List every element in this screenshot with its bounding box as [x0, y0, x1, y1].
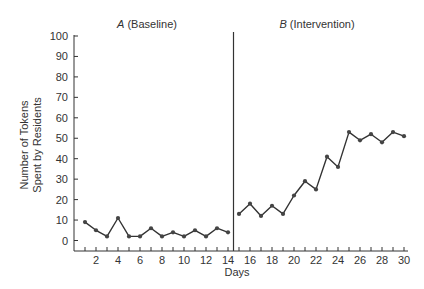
line-chart: A (Baseline)B (Intervention) 01020304050…	[0, 0, 424, 289]
y-tick-label: 10	[56, 214, 68, 226]
y-tick-label: 20	[56, 194, 68, 206]
data-point-marker	[160, 234, 164, 238]
data-point-marker	[193, 228, 197, 232]
x-tick-label: 10	[178, 254, 190, 266]
data-point-marker	[94, 228, 98, 232]
y-tick-label: 50	[56, 132, 68, 144]
y-tick-label: 60	[56, 112, 68, 124]
data-point-marker	[83, 220, 87, 224]
x-tick-label: 30	[398, 254, 410, 266]
data-point-marker	[215, 226, 219, 230]
phase-label-intervention: B (Intervention)	[279, 18, 354, 30]
y-tick-label: 30	[56, 173, 68, 185]
data-point-marker	[105, 234, 109, 238]
x-tick-label: 8	[159, 254, 165, 266]
data-point-marker	[182, 234, 186, 238]
y-tick-label: 80	[56, 71, 68, 83]
x-tick-label: 28	[376, 254, 388, 266]
data-point-marker	[402, 134, 406, 138]
series-line-baseline	[85, 218, 228, 236]
data-point-marker	[358, 138, 362, 142]
data-point-marker	[226, 230, 230, 234]
data-point-marker	[237, 212, 241, 216]
x-axis-title: Days	[224, 266, 250, 278]
data-point-marker	[380, 140, 384, 144]
data-point-marker	[248, 202, 252, 206]
y-tick-label: 100	[50, 30, 68, 42]
data-point-marker	[281, 212, 285, 216]
x-tick-label: 2	[93, 254, 99, 266]
data-point-marker	[325, 155, 329, 159]
x-tick-label: 20	[288, 254, 300, 266]
y-axis-title-line-1: Number of Tokens	[18, 100, 30, 190]
data-point-marker	[270, 204, 274, 208]
y-tick-label: 40	[56, 153, 68, 165]
data-point-marker	[314, 187, 318, 191]
data-point-marker	[292, 193, 296, 197]
x-tick-label: 6	[137, 254, 143, 266]
y-tick-label: 70	[56, 91, 68, 103]
data-point-marker	[391, 130, 395, 134]
x-tick-label: 18	[266, 254, 278, 266]
x-tick-label: 22	[310, 254, 322, 266]
y-axis-title-line-2: Spent by Residents	[31, 97, 43, 193]
data-series	[83, 130, 406, 238]
data-point-marker	[149, 226, 153, 230]
data-point-marker	[138, 234, 142, 238]
data-point-marker	[171, 230, 175, 234]
x-axis: 24681012141618202224262830	[74, 247, 410, 266]
y-tick-label: 90	[56, 50, 68, 62]
data-point-marker	[116, 216, 120, 220]
x-tick-label: 16	[244, 254, 256, 266]
data-point-marker	[347, 130, 351, 134]
data-point-marker	[204, 234, 208, 238]
y-axis-title: Number of Tokens Spent by Residents	[18, 97, 43, 193]
phase-labels: A (Baseline)B (Intervention)	[116, 18, 355, 30]
y-axis: 0102030405060708090100	[50, 30, 78, 251]
series-line-intervention	[239, 132, 404, 216]
data-point-marker	[336, 165, 340, 169]
phase-label-baseline: A (Baseline)	[116, 18, 177, 30]
x-tick-label: 24	[332, 254, 344, 266]
data-point-marker	[303, 179, 307, 183]
x-tick-label: 4	[115, 254, 121, 266]
x-tick-label: 14	[222, 254, 234, 266]
data-point-marker	[369, 132, 373, 136]
data-point-marker	[259, 214, 263, 218]
x-tick-label: 12	[200, 254, 212, 266]
data-point-marker	[127, 234, 131, 238]
y-tick-label: 0	[62, 235, 68, 247]
x-tick-label: 26	[354, 254, 366, 266]
